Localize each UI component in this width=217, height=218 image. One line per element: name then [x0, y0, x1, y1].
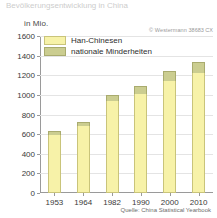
y-axis-tick-label: 800 — [22, 110, 35, 119]
bar-stack[interactable] — [48, 131, 61, 193]
legend-item-han[interactable]: Han-Chinesen — [44, 35, 152, 45]
source-note: Quelle: China Statistical Yearbook — [121, 207, 211, 213]
x-axis-tick-label: 2010 — [190, 198, 208, 207]
bar-stack[interactable] — [106, 94, 119, 193]
y-axis-tick-label: 1600 — [17, 32, 35, 41]
y-axis-tick-label: 1000 — [17, 90, 35, 99]
bar-segment-minderheiten — [192, 62, 205, 73]
bars-container: 195319641982199020002010 — [40, 36, 213, 193]
legend-label-minderheiten: nationale Minderheiten — [71, 47, 152, 56]
y-axis-tick-label: 600 — [22, 130, 35, 139]
y-axis-tick — [37, 193, 40, 194]
bar-segment-han — [163, 81, 176, 193]
bar-segment-minderheiten — [163, 71, 176, 81]
bar-stack[interactable] — [134, 86, 147, 193]
bar-segment-han — [106, 101, 119, 193]
bar-stack[interactable] — [192, 62, 205, 193]
bar-segment-han — [48, 135, 61, 193]
y-axis-tick-label: 400 — [22, 149, 35, 158]
x-axis-tick — [54, 193, 55, 196]
plot-area: 02004006008001000120014001600 1953196419… — [40, 36, 213, 193]
copyright-code: 38683 CX — [189, 27, 213, 33]
bar-segment-han — [134, 94, 147, 193]
copyright-notice: © Westermann 38683 CX — [149, 27, 213, 33]
y-axis-unit-label: in Mio. — [24, 19, 48, 28]
x-axis-tick-label: 1982 — [103, 198, 121, 207]
y-axis-tick-label: 1200 — [17, 71, 35, 80]
bar-segment-han — [77, 126, 90, 193]
bar-segment-han — [192, 73, 205, 193]
legend: Han-Chinesen nationale Minderheiten — [44, 35, 152, 56]
legend-label-han: Han-Chinesen — [71, 36, 122, 45]
x-axis-tick — [141, 193, 142, 196]
x-axis-tick-label: 1964 — [74, 198, 92, 207]
legend-item-minderheiten[interactable]: nationale Minderheiten — [44, 46, 152, 56]
y-axis-tick-label: 0 — [31, 189, 35, 198]
bar-stack[interactable] — [163, 71, 176, 193]
y-axis-tick-label: 200 — [22, 169, 35, 178]
chart-title: Bevölkerungsentwicklung in China — [6, 0, 213, 11]
x-axis-tick — [170, 193, 171, 196]
legend-swatch-icon-han — [44, 36, 66, 45]
bar-stack[interactable] — [77, 122, 90, 193]
chart-root: Bevölkerungsentwicklung in China in Mio.… — [0, 0, 217, 218]
x-axis-tick — [112, 193, 113, 196]
x-axis-tick-label: 2000 — [161, 198, 179, 207]
x-axis-tick — [199, 193, 200, 196]
bar-segment-minderheiten — [134, 86, 147, 95]
x-axis-tick — [83, 193, 84, 196]
x-axis-tick-label: 1953 — [46, 198, 64, 207]
x-axis-tick-label: 1990 — [132, 198, 150, 207]
y-axis-tick-label: 1400 — [17, 51, 35, 60]
copyright-text: © Westermann — [149, 27, 187, 33]
legend-swatch-icon-minderheiten — [44, 47, 66, 56]
